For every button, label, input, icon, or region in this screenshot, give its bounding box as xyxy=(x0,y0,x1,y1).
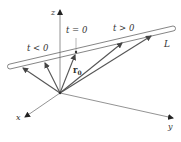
t-positive-label: t > 0 xyxy=(113,23,135,33)
origin-point xyxy=(59,92,61,94)
t-zero-point xyxy=(75,51,77,53)
line-L-label: L xyxy=(163,39,170,49)
axes xyxy=(25,10,173,118)
line-vector-diagram: z x y L t < 0 t = 0 t > 0 r0 xyxy=(0,0,181,142)
y-axis-label: y xyxy=(167,122,173,131)
vector-t-neg-2 xyxy=(23,68,60,93)
t-zero-label: t = 0 xyxy=(66,25,88,35)
y-axis xyxy=(60,93,173,118)
x-axis xyxy=(25,93,60,117)
z-axis-label: z xyxy=(50,8,56,17)
t-negative-label: t < 0 xyxy=(27,43,49,53)
x-axis-label: x xyxy=(16,113,21,122)
r0-subscript: 0 xyxy=(77,69,81,76)
r0-label: r0 xyxy=(73,65,82,76)
